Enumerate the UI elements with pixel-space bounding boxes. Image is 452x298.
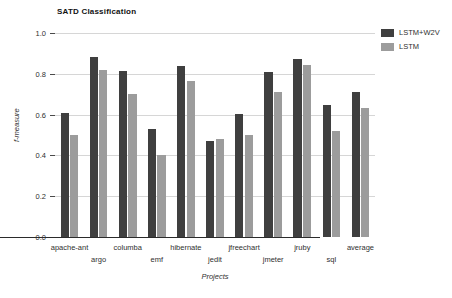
bar <box>90 57 98 237</box>
x-tick-label: jruby <box>294 243 310 252</box>
bar <box>119 71 127 237</box>
bar <box>332 131 340 237</box>
bar <box>245 135 253 237</box>
bar <box>99 70 107 237</box>
bar <box>235 114 243 237</box>
x-tick-label: average <box>347 243 374 252</box>
bar <box>187 81 195 237</box>
bar <box>157 155 165 237</box>
x-tick-label: jfreechart <box>228 243 259 252</box>
x-tick-label: jedit <box>208 255 222 264</box>
chart-figure: SATD Classification 0.00.20.40.60.81.0 f… <box>0 0 452 298</box>
y-tick-label: 1.0 <box>36 29 46 38</box>
bar-group <box>346 33 375 237</box>
bar-group <box>113 33 142 237</box>
bar <box>293 59 301 238</box>
x-axis-ticks: apache-antargocolumbaemfhibernatejeditjf… <box>0 237 452 277</box>
bar <box>128 94 136 237</box>
x-tick-label: jmeter <box>263 255 284 264</box>
y-tick-label: 0.4 <box>36 151 46 160</box>
bar <box>274 92 282 237</box>
bar <box>352 92 360 237</box>
x-tick-label: emf <box>151 255 164 264</box>
bar-group <box>84 33 113 237</box>
x-tick-label: columba <box>114 243 142 252</box>
bar-group <box>230 33 259 237</box>
bar <box>70 135 78 237</box>
chart-legend: LSTM+W2VLSTM <box>381 28 451 56</box>
legend-swatch-icon <box>381 29 394 37</box>
bar <box>177 66 185 237</box>
x-tick-label: sql <box>327 255 337 264</box>
bar-group <box>200 33 229 237</box>
bar <box>264 72 272 237</box>
bar-group <box>55 33 84 237</box>
x-axis-label: Projects <box>201 272 228 281</box>
bar-group <box>259 33 288 237</box>
chart-title: SATD Classification <box>57 7 136 16</box>
x-tick-label: argo <box>91 255 106 264</box>
y-axis-label: f-measure <box>12 108 21 142</box>
legend-entry[interactable]: LSTM+W2V <box>381 28 451 37</box>
bar-group <box>317 33 346 237</box>
legend-label: LSTM <box>399 42 419 51</box>
bar <box>323 105 331 237</box>
bar-group <box>142 33 171 237</box>
legend-label: LSTM+W2V <box>399 28 440 37</box>
bar <box>361 108 369 237</box>
bar-group <box>288 33 317 237</box>
bar <box>61 113 69 237</box>
bar <box>148 129 156 237</box>
y-tick-label: 0.6 <box>36 110 46 119</box>
legend-entry[interactable]: LSTM <box>381 42 451 51</box>
bar <box>206 141 214 237</box>
y-tick-label: 0.8 <box>36 69 46 78</box>
x-tick-label: apache-ant <box>51 243 89 252</box>
legend-swatch-icon <box>381 43 394 51</box>
y-tick-label: 0.2 <box>36 192 46 201</box>
plot-area <box>55 33 375 237</box>
bar <box>303 65 311 237</box>
x-tick-label: hibernate <box>170 243 201 252</box>
bar-group <box>171 33 200 237</box>
bar <box>216 139 224 237</box>
